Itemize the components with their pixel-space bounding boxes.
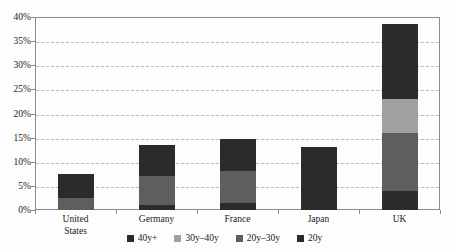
bar-segment-40y-: [301, 147, 337, 202]
y-axis-tick-label: 35%: [0, 36, 31, 46]
x-axis-label-line: UK: [359, 214, 440, 226]
legend-swatch-icon: [127, 235, 134, 242]
x-axis-label-line: France: [197, 214, 278, 226]
legend-swatch-icon: [297, 235, 304, 242]
x-axis-tick: [440, 210, 441, 214]
bar-segment-20y: [301, 203, 337, 210]
legend-label: 20y–30y: [247, 233, 280, 243]
legend-label: 30y–40y: [185, 233, 218, 243]
bar-united-states: [58, 17, 94, 210]
legend-swatch-icon: [174, 235, 181, 242]
x-axis-label-line: Japan: [278, 214, 359, 226]
x-axis-label-uk: UK: [359, 214, 440, 226]
bar-segment-20y-30y: [139, 176, 175, 205]
x-axis-label-line: United: [35, 214, 116, 226]
bar-uk: [382, 17, 418, 210]
legend-label: 40y+: [138, 233, 158, 243]
bar-segment-20y-30y: [220, 171, 256, 202]
stacked-bar-chart: 0%5%10%15%20%25%30%35%40% UnitedStatesGe…: [0, 0, 449, 252]
bar-segment-30y-40y: [382, 99, 418, 133]
bar-segment-20y: [220, 203, 256, 210]
bar-segment-40y-: [382, 24, 418, 99]
y-axis-tick-label: 15%: [0, 133, 31, 143]
legend-item: 40y+: [127, 233, 158, 243]
x-axis-label-germany: Germany: [116, 214, 197, 226]
bar-segment-20y-30y: [382, 133, 418, 191]
bar-segment-20y: [382, 191, 418, 210]
bar-segment-40y-: [139, 145, 175, 176]
legend-item: 20y: [297, 233, 322, 243]
y-axis-tick-label: 25%: [0, 84, 31, 94]
legend-item: 30y–40y: [174, 233, 218, 243]
x-axis-label-france: France: [197, 214, 278, 226]
legend-label: 20y: [308, 233, 322, 243]
bar-segment-20y-30y: [58, 198, 94, 210]
y-axis-tick-label: 0%: [0, 205, 31, 215]
bar-germany: [139, 17, 175, 210]
bar-japan: [301, 17, 337, 210]
legend-item: 20y–30y: [236, 233, 280, 243]
y-axis-tick-label: 10%: [0, 157, 31, 167]
bars-layer: [35, 17, 440, 210]
x-axis-label-japan: Japan: [278, 214, 359, 226]
y-axis-tick-label: 30%: [0, 60, 31, 70]
bar-france: [220, 17, 256, 210]
x-axis-label-line: Germany: [116, 214, 197, 226]
bar-segment-40y-: [220, 139, 256, 172]
y-axis-tick-label: 20%: [0, 109, 31, 119]
y-axis-tick-label: 5%: [0, 181, 31, 191]
y-axis-tick-label: 40%: [0, 12, 31, 22]
legend-swatch-icon: [236, 235, 243, 242]
bar-segment-40y-: [58, 174, 94, 198]
chart-legend: 40y+30y–40y20y–30y20y: [0, 233, 449, 243]
bar-segment-20y: [139, 205, 175, 210]
y-axis-labels: 0%5%10%15%20%25%30%35%40%: [0, 17, 35, 210]
